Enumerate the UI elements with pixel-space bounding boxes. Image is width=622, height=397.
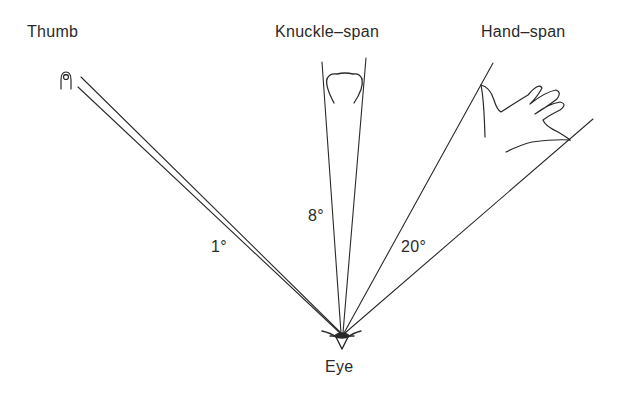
eye-icon [322, 331, 361, 349]
visual-angle-diagram: Thumb Knuckle–span Hand–span Eye 1° 8° 2… [0, 0, 622, 397]
knuckle-span-label: Knuckle–span [275, 23, 379, 41]
hand-span-angle-label: 20° [401, 238, 426, 256]
knuckle-span-sight-lines [322, 58, 366, 333]
diagram-canvas [0, 0, 622, 397]
thumb-sight-lines [78, 77, 341, 333]
hand-span-label: Hand–span [481, 23, 566, 41]
knuckle-icon [327, 73, 363, 103]
eye-label: Eye [325, 358, 353, 376]
thumb-label: Thumb [27, 23, 78, 41]
thumb-icon [61, 72, 71, 89]
knuckle-span-angle-label: 8° [308, 207, 324, 225]
hand-icon [481, 85, 570, 152]
thumb-angle-label: 1° [211, 238, 227, 256]
